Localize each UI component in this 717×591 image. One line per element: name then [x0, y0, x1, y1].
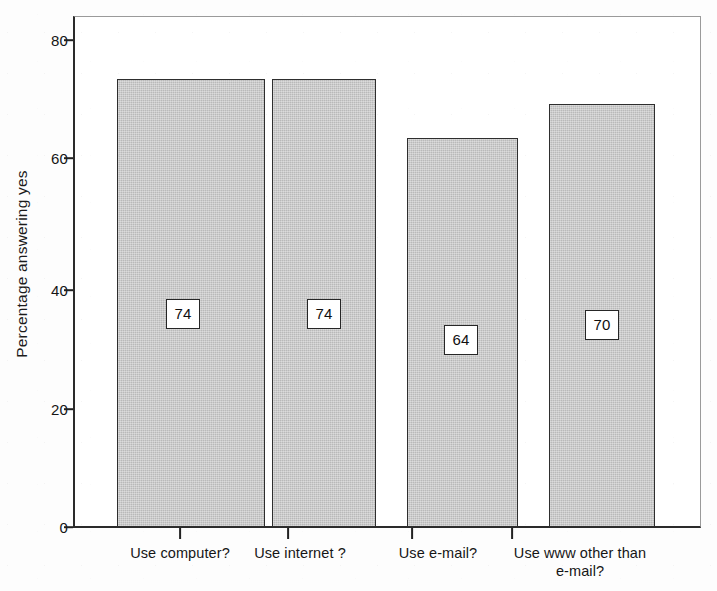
bar-value-label-use-email: 64 — [444, 325, 478, 355]
x-tick-mark-4 — [511, 528, 513, 539]
bar-value-label-use-computer: 74 — [166, 299, 200, 329]
x-tick-mark-1 — [179, 528, 181, 539]
x-tick-mark-2 — [287, 528, 289, 539]
bars-layer: 74 74 64 70 — [0, 0, 717, 591]
x-axis-label-use-www-other-than-email: Use www other than e-mail? — [485, 544, 675, 580]
bar-value-label-use-www-other-than-email: 70 — [585, 310, 619, 340]
chart-page: Percentage answering yes 80 60 40 20 0 7… — [0, 0, 717, 591]
x-tick-mark-3 — [411, 528, 413, 539]
bar-value-label-use-internet: 74 — [307, 299, 341, 329]
